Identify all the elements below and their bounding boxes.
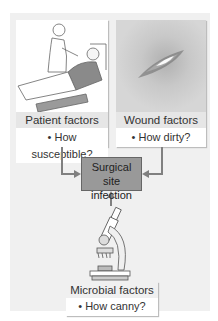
microbial-factors-label: Microbial factors (66, 282, 158, 298)
microbial-factors-card: Microbial factors • How canny? (66, 282, 158, 316)
microscope-icon (0, 0, 218, 321)
microbial-factors-question: • How canny? (66, 298, 158, 315)
